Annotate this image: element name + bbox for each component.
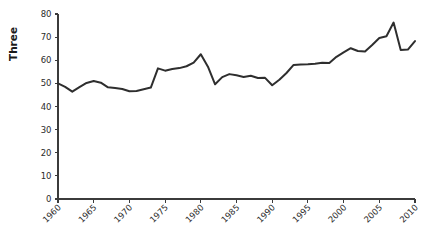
- y-tick-label: 70: [41, 32, 52, 42]
- x-tick-label: 1975: [148, 202, 170, 224]
- y-tick-labels: 01020304050607080: [41, 9, 52, 204]
- x-axis-group: 1960196519701975198019851990199520002005…: [41, 199, 420, 225]
- line-chart: 01020304050607080 Three 1960196519701975…: [0, 0, 437, 237]
- y-tick-label: 10: [41, 171, 52, 181]
- data-line-three: [58, 23, 415, 92]
- y-tick-label: 20: [41, 148, 52, 158]
- x-tick-label: 1965: [76, 202, 98, 224]
- y-axis-title: Three: [7, 27, 19, 61]
- x-tick-label: 2005: [362, 202, 384, 224]
- x-tick-label: 1970: [112, 202, 134, 224]
- chart-svg: 01020304050607080 Three 1960196519701975…: [0, 0, 437, 237]
- x-tick-label: 1995: [290, 202, 312, 224]
- y-axis-group: 01020304050607080 Three: [7, 9, 58, 204]
- y-tick-label: 30: [41, 125, 52, 135]
- y-tick-label: 0: [46, 194, 51, 204]
- x-tick-label: 1980: [183, 202, 205, 224]
- x-tick-label: 2000: [326, 202, 348, 224]
- y-tick-label: 60: [41, 55, 52, 65]
- y-tick-label: 80: [41, 9, 52, 19]
- y-tick-label: 50: [41, 78, 52, 88]
- x-tick-label: 1960: [41, 202, 63, 224]
- x-tick-labels: 1960196519701975198019851990199520002005…: [41, 202, 420, 224]
- x-tick-label: 1985: [219, 202, 241, 224]
- x-tick-label: 2010: [398, 202, 420, 224]
- data-series-group: [58, 23, 415, 92]
- x-tick-label: 1990: [255, 202, 277, 224]
- y-tick-label: 40: [41, 102, 52, 112]
